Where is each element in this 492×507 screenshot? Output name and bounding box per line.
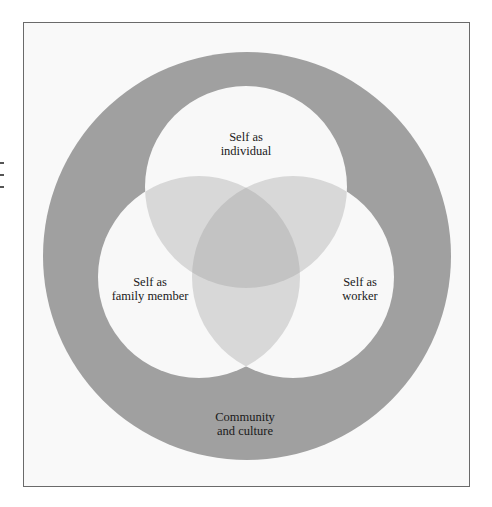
label-individual-line1: Self as [196,130,296,144]
label-individual-line2: individual [196,144,296,158]
label-community-culture: Community and culture [195,410,295,438]
label-family-line1: Self as [100,275,200,289]
label-worker-line1: Self as [320,275,400,289]
label-worker-line2: worker [320,289,400,303]
label-community-line1: Community [195,410,295,424]
label-community-line2: and culture [195,424,295,438]
label-family-member: Self as family member [100,275,200,303]
label-family-line2: family member [100,289,200,303]
label-individual: Self as individual [196,130,296,158]
label-worker: Self as worker [320,275,400,303]
